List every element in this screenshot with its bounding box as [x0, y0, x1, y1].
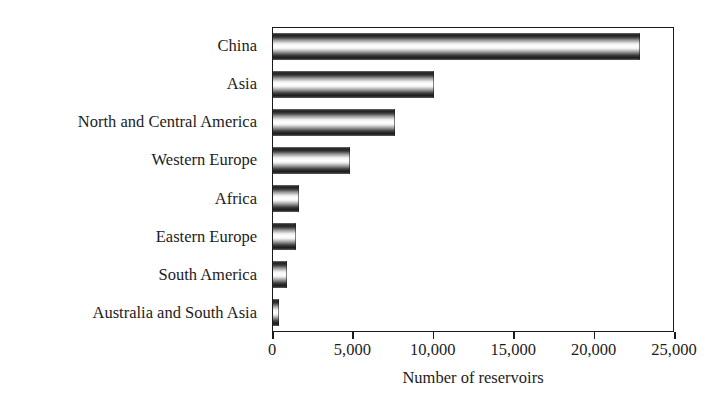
x-axis-tick-label: 25,000 [651, 340, 696, 360]
x-axis-tick-label: 0 [268, 340, 276, 360]
plot-area [272, 27, 674, 332]
y-axis-label-south-america: South America [0, 266, 257, 283]
x-axis-tick [352, 332, 354, 339]
y-axis-label-australia-and-south-asia: Australia and South Asia [0, 304, 257, 321]
y-axis-label-eastern-europe: Eastern Europe [0, 228, 257, 245]
y-axis-label-north-and-central-america: North and Central America [0, 113, 257, 130]
y-axis-label-china: China [0, 37, 257, 54]
x-axis-title: Number of reservoirs [272, 368, 674, 388]
x-axis-tick-label: 5,000 [334, 340, 371, 360]
x-axis-tick-label: 15,000 [491, 340, 536, 360]
bar-chart-figure: China Asia North and Central America Wes… [0, 0, 725, 418]
bar-china [273, 33, 640, 60]
x-axis-tick-labels: 05,00010,00015,00020,00025,000 [0, 340, 725, 362]
bar-south-america [273, 261, 287, 288]
bar-australia-and-south-asia [273, 299, 279, 326]
x-axis-tick-label: 20,000 [571, 340, 616, 360]
bar-eastern-europe [273, 223, 296, 250]
bar-africa [273, 185, 299, 212]
x-axis-tick [513, 332, 515, 339]
y-axis-label-africa: Africa [0, 190, 257, 207]
y-axis-category-labels: China Asia North and Central America Wes… [0, 27, 265, 332]
x-axis-tick [433, 332, 435, 339]
x-axis-tick-label: 10,000 [410, 340, 455, 360]
x-axis-tick [272, 332, 274, 339]
y-axis-label-asia: Asia [0, 75, 257, 92]
bar-asia [273, 71, 434, 98]
y-axis-label-western-europe: Western Europe [0, 151, 257, 168]
x-axis-tick [674, 332, 676, 339]
x-axis-tick [594, 332, 596, 339]
x-axis-ticks [272, 332, 674, 340]
bar-north-and-central-america [273, 109, 395, 136]
bar-western-europe [273, 147, 350, 174]
